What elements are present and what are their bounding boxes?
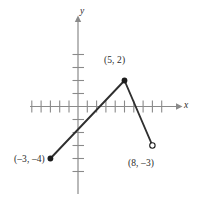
point-label-c: (8, –3) — [128, 158, 154, 168]
y-axis — [73, 16, 85, 195]
x-axis-arrow-icon — [176, 103, 183, 110]
x-axis-label: x — [184, 100, 188, 110]
y-axis-label: y — [80, 6, 84, 16]
graph-figure: (–3, –4) (5, 2) (8, –3) x y — [0, 0, 219, 200]
line-segment-ascending — [50, 81, 124, 159]
point-marker-filled-b — [122, 78, 128, 84]
data-point-markers — [48, 78, 156, 162]
point-label-a: (–3, –4) — [14, 154, 45, 164]
point-marker-filled-a — [48, 156, 54, 162]
x-axis — [30, 101, 183, 113]
line-segment-descending — [125, 81, 153, 146]
point-label-b: (5, 2) — [104, 55, 125, 65]
point-marker-open-c — [150, 143, 155, 148]
piecewise-line — [50, 81, 152, 159]
y-axis-arrow-icon — [75, 16, 81, 23]
